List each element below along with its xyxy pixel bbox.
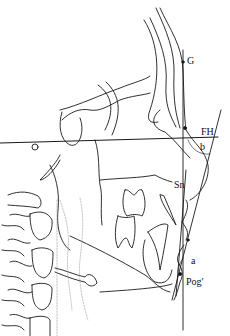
ramus-front [40, 155, 60, 180]
cephalometric-diagram: G FH b Sn a Pog′ [0, 0, 230, 336]
a-point [187, 239, 189, 241]
n-point [184, 127, 187, 130]
orbitale-marker [32, 144, 38, 150]
g-point [182, 61, 184, 63]
label-b: b [200, 142, 205, 152]
upper-incisor [160, 195, 176, 225]
hyoid-bone [55, 268, 97, 286]
clivus-arc-2 [106, 82, 118, 135]
atlas [8, 192, 41, 208]
vertebra-c3 [32, 248, 53, 278]
label-pog: Pog′ [186, 277, 204, 287]
label-a: a [191, 256, 195, 266]
pharynx-dotted-1 [60, 200, 72, 310]
pog-point [179, 273, 182, 276]
ramus-posterior [50, 165, 70, 250]
label-fh: FH [201, 127, 214, 137]
palatal-plane [100, 175, 172, 182]
vertebra-c5 [30, 316, 50, 336]
label-g: G [187, 56, 194, 66]
pharynx-dotted-2 [79, 198, 88, 320]
lower-molar [115, 216, 135, 248]
cranial-base [60, 76, 150, 110]
upper-molar [123, 190, 145, 216]
fh-line [0, 137, 218, 143]
orbit-contour [144, 20, 158, 123]
vertebra-c2 [30, 212, 52, 240]
frontal-bone-inner [150, 18, 176, 127]
lower-incisor [148, 224, 168, 270]
vertebra-c4 [32, 283, 52, 310]
pterygoid-contour [95, 140, 102, 225]
label-sn: Sn [174, 180, 185, 190]
sella-contour [62, 93, 150, 120]
